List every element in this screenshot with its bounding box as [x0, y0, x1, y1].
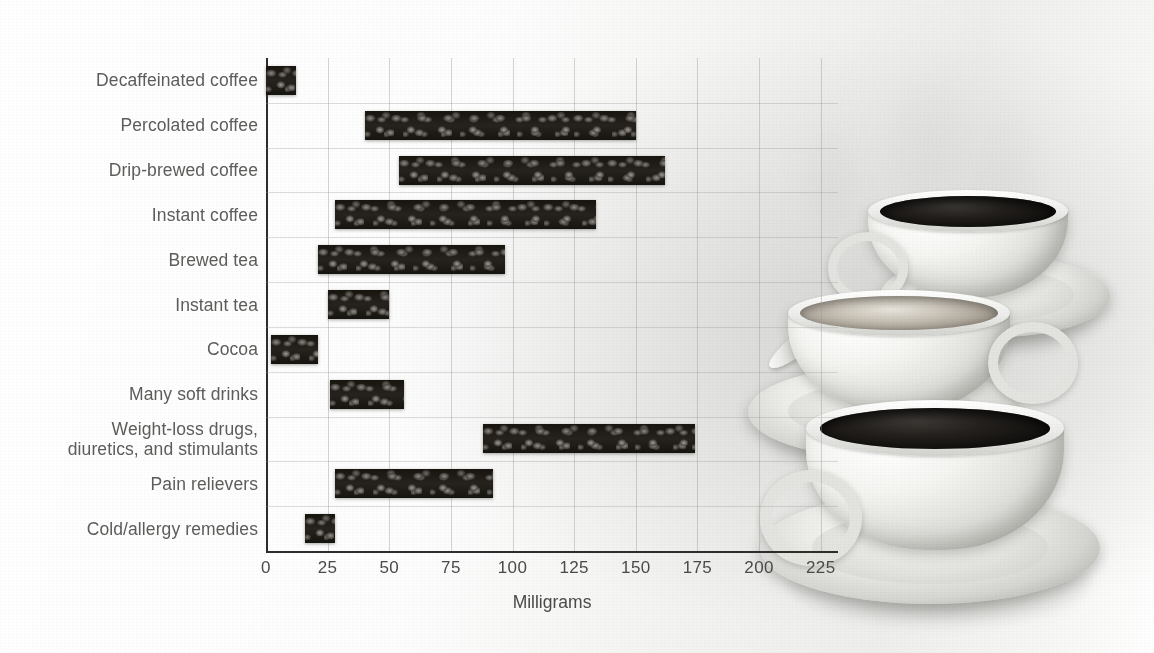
y-axis-label-line: Many soft drinks [129, 384, 258, 404]
y-axis-line [266, 58, 268, 553]
bar [365, 111, 636, 140]
y-axis-label: Decaffeinated coffee [96, 70, 258, 90]
y-axis-label: Percolated coffee [120, 115, 258, 135]
gridline-vertical [636, 58, 637, 551]
y-axis-label: Many soft drinks [129, 384, 258, 404]
y-axis-label: Weight-loss drugs,diuretics, and stimula… [68, 419, 258, 459]
gridline-vertical [821, 58, 822, 551]
plot-area: Milligrams 0255075100125150175200225 [266, 58, 838, 553]
x-axis-line [266, 551, 838, 553]
chart-figure: Decaffeinated coffeePercolated coffeeDri… [0, 0, 1154, 653]
gridline-horizontal [266, 192, 838, 193]
x-axis-tick-label: 25 [318, 558, 338, 578]
bar [483, 424, 695, 453]
caffeine-bar-chart: Decaffeinated coffeePercolated coffeeDri… [0, 0, 1154, 653]
bar [266, 66, 296, 95]
y-axis-label-line: Cold/allergy remedies [87, 519, 258, 539]
gridline-horizontal [266, 237, 838, 238]
y-axis-label: Cocoa [207, 339, 258, 359]
bar [399, 156, 665, 185]
y-axis-label-line: Drip-brewed coffee [109, 160, 258, 180]
y-axis-label: Drip-brewed coffee [109, 160, 258, 180]
y-axis-category-labels: Decaffeinated coffeePercolated coffeeDri… [0, 58, 258, 553]
x-axis-tick-label: 0 [261, 558, 271, 578]
x-axis-tick-label: 125 [559, 558, 589, 578]
y-axis-label: Pain relievers [151, 474, 258, 494]
bar [271, 335, 318, 364]
bar [318, 245, 505, 274]
y-axis-label-line: Instant coffee [152, 205, 258, 225]
x-axis-title: Milligrams [266, 592, 838, 613]
y-axis-label: Instant coffee [152, 205, 258, 225]
gridline-horizontal [266, 103, 838, 104]
x-axis-tick-label: 150 [621, 558, 651, 578]
y-axis-label-line: Cocoa [207, 339, 258, 359]
y-axis-label: Brewed tea [168, 250, 258, 270]
gridline-horizontal [266, 461, 838, 462]
gridline-horizontal [266, 372, 838, 373]
x-axis-tick-label: 100 [498, 558, 528, 578]
y-axis-label-line: Weight-loss drugs, [68, 419, 258, 439]
y-axis-label-line: Pain relievers [151, 474, 258, 494]
gridline-horizontal [266, 327, 838, 328]
bar [328, 290, 390, 319]
gridline-horizontal [266, 506, 838, 507]
x-axis-tick-label: 50 [379, 558, 399, 578]
gridline-horizontal [266, 417, 838, 418]
bar [330, 380, 404, 409]
bar [335, 200, 596, 229]
y-axis-label-line: diuretics, and stimulants [68, 439, 258, 459]
y-axis-label: Cold/allergy remedies [87, 519, 258, 539]
bar [305, 514, 335, 543]
y-axis-label-line: Brewed tea [168, 250, 258, 270]
y-axis-label-line: Percolated coffee [120, 115, 258, 135]
gridline-horizontal [266, 148, 838, 149]
x-axis-tick-label: 200 [744, 558, 774, 578]
x-axis-tick-label: 75 [441, 558, 461, 578]
bar [335, 469, 493, 498]
gridline-vertical [759, 58, 760, 551]
gridline-horizontal [266, 282, 838, 283]
gridline-vertical [697, 58, 698, 551]
y-axis-label-line: Decaffeinated coffee [96, 70, 258, 90]
y-axis-label: Instant tea [175, 295, 258, 315]
x-axis-tick-label: 225 [806, 558, 836, 578]
y-axis-label-line: Instant tea [175, 295, 258, 315]
x-axis-tick-label: 175 [683, 558, 713, 578]
